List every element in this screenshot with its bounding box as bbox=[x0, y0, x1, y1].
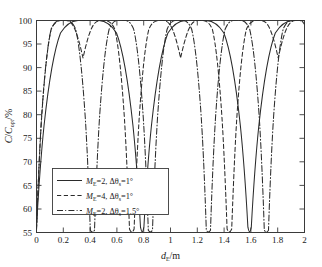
y-tick-label: 85 bbox=[23, 86, 33, 96]
y-tickmarks-right bbox=[300, 21, 305, 233]
y-tick-label: 90 bbox=[23, 63, 33, 73]
y-tick-label: 80 bbox=[23, 110, 33, 120]
y-axis-title-suffix: /% bbox=[3, 109, 14, 120]
y-tick-label: 100 bbox=[19, 16, 33, 26]
chart-canvas: 0 0.2 0.4 0.6 0.8 1 1.2 1.4 1.6 1.8 2 55… bbox=[0, 0, 322, 267]
x-tick-label: 1.2 bbox=[192, 235, 203, 245]
x-tick-label: 0 bbox=[34, 235, 39, 245]
svg-text:C/Copt/%: C/Copt/% bbox=[3, 109, 15, 144]
x-tick-label: 0.4 bbox=[84, 235, 96, 245]
x-tick-label: 0.2 bbox=[58, 235, 69, 245]
legend-label-series-1: ME=2, Δθs=1° bbox=[85, 177, 133, 187]
x-tick-label: 2 bbox=[302, 235, 307, 245]
x-axis-title: dE/m bbox=[161, 250, 180, 262]
legend: ME=2, Δθs=1° ME=4, Δθs=1° ME=2, Δθs=1.5° bbox=[53, 169, 169, 217]
x-axis-title-suffix: /m bbox=[169, 250, 180, 261]
x-tick-labels: 0 0.2 0.4 0.6 0.8 1 1.2 1.4 1.6 1.8 2 bbox=[34, 235, 307, 245]
x-tick-label: 1.4 bbox=[218, 235, 230, 245]
y-tick-label: 70 bbox=[23, 157, 33, 167]
y-tick-label: 95 bbox=[23, 39, 33, 49]
y-axis-title: C/Copt/% bbox=[3, 109, 15, 144]
legend-label-series-2: ME=4, Δθs=1° bbox=[85, 192, 133, 202]
y-tick-label: 65 bbox=[23, 181, 33, 191]
x-tick-label: 0.6 bbox=[111, 235, 123, 245]
y-tick-label: 75 bbox=[23, 133, 33, 143]
y-tick-label: 60 bbox=[23, 204, 33, 214]
x-tick-label: 0.8 bbox=[138, 235, 150, 245]
svg-text:dE/m: dE/m bbox=[161, 250, 180, 262]
x-tick-label: 1.8 bbox=[272, 235, 284, 245]
y-tick-labels: 55 60 65 70 75 80 85 90 95 100 bbox=[19, 16, 33, 238]
y-tick-label: 55 bbox=[23, 228, 33, 238]
chart-figure: 0 0.2 0.4 0.6 0.8 1 1.2 1.4 1.6 1.8 2 55… bbox=[0, 0, 322, 267]
x-tick-label: 1 bbox=[168, 235, 173, 245]
x-tick-label: 1.6 bbox=[245, 235, 257, 245]
